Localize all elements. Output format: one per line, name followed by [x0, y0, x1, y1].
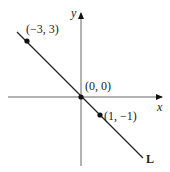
y-axis-label: y — [70, 6, 77, 20]
point-label-origin: (0, 0) — [85, 79, 111, 93]
point-1-neg1 — [97, 112, 102, 117]
point-label-neg3-3: (−3, 3) — [26, 22, 59, 36]
x-axis-label: x — [156, 100, 163, 114]
line-label: L — [146, 152, 154, 166]
point-origin — [78, 94, 83, 99]
coordinate-diagram: (−3, 3) (0, 0) (1, −1) y x L — [0, 0, 170, 172]
point-neg3-3 — [24, 38, 29, 43]
point-label-1-neg1: (1, −1) — [104, 109, 137, 123]
